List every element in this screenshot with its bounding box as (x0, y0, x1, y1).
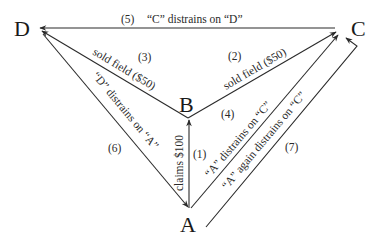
edge-3-number: (3) (138, 51, 152, 64)
node-c: C (351, 16, 366, 41)
node-d: D (14, 16, 30, 41)
edge-2-number: (2) (228, 50, 242, 63)
distraint-flow-diagram: D C B A (5) “C” distrains on “D” (3) sol… (0, 0, 382, 240)
edge-6-number: (6) (108, 142, 122, 155)
edge-7-a-to-c-again (206, 38, 357, 227)
edge-7-number: (7) (285, 141, 299, 154)
edge-5-label: “C” distrains on “D” (147, 13, 243, 25)
edge-1-label: claims $100 (173, 135, 185, 191)
node-a: A (180, 212, 196, 237)
edge-4-number: (4) (221, 108, 235, 121)
edge-1-number: (1) (193, 148, 207, 161)
node-b: B (179, 92, 194, 117)
edge-5-number: (5) (121, 13, 135, 26)
